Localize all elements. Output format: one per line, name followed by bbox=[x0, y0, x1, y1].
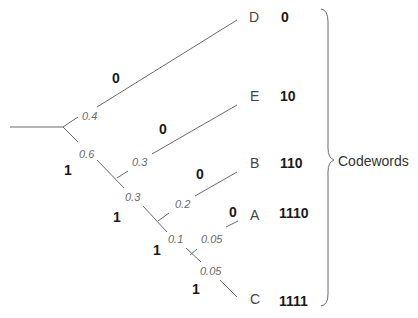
codeword-e: 10 bbox=[280, 88, 296, 104]
bit-label-d: 0 bbox=[112, 70, 120, 86]
bit-label-rest3: 1 bbox=[153, 242, 161, 258]
codewords-label: Codewords bbox=[338, 153, 409, 169]
prob-label-rest1: 0.6 bbox=[79, 148, 95, 160]
prob-label-c: 0.05 bbox=[200, 265, 222, 277]
prob-label-e: 0.3 bbox=[132, 156, 148, 168]
edge-stub-a bbox=[190, 249, 197, 255]
bit-label-rest2: 1 bbox=[113, 209, 121, 225]
codeword-c: 1111 bbox=[279, 293, 308, 309]
bit-label-c: 1 bbox=[192, 281, 200, 297]
bit-label-b: 0 bbox=[196, 166, 204, 182]
symbol-c: C bbox=[250, 291, 260, 307]
symbol-b: B bbox=[250, 155, 259, 171]
bit-label-a: 0 bbox=[229, 204, 237, 220]
codeword-a: 1110 bbox=[279, 205, 309, 221]
edge-rest2 bbox=[143, 206, 167, 232]
edge-stub-e bbox=[117, 171, 128, 178]
edge-rest3 bbox=[186, 248, 201, 262]
symbol-d: D bbox=[249, 9, 259, 25]
symbol-a: A bbox=[250, 207, 260, 223]
edge-d bbox=[97, 20, 237, 107]
prob-label-rest2: 0.3 bbox=[125, 191, 141, 203]
codeword-b: 110 bbox=[280, 155, 303, 171]
bit-label-rest1: 1 bbox=[64, 162, 72, 178]
edge-c bbox=[220, 280, 237, 297]
bit-label-e: 0 bbox=[159, 121, 167, 137]
prob-label-d: 0.4 bbox=[82, 110, 97, 122]
prob-label-a: 0.05 bbox=[201, 233, 223, 245]
codeword-d: 0 bbox=[281, 9, 289, 25]
edge-stub-b bbox=[158, 213, 169, 221]
curly-brace-icon bbox=[321, 9, 334, 306]
edge-stub-d bbox=[63, 117, 78, 127]
symbol-e: E bbox=[250, 88, 259, 104]
huffman-tree-diagram: 0.4 0.6 0 1 0.3 0 0.3 1 0.2 0 0.1 1 0.05… bbox=[0, 0, 418, 318]
edge-rest1 bbox=[97, 160, 124, 188]
prob-label-b: 0.2 bbox=[175, 198, 190, 210]
edge-a bbox=[226, 221, 238, 227]
prob-label-rest3: 0.1 bbox=[168, 233, 183, 245]
edge-stub-rest1 bbox=[63, 127, 78, 142]
